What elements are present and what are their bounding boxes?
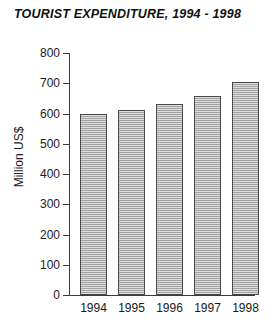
bar-1994 <box>80 114 107 295</box>
y-axis-tick-label: 400 <box>12 168 60 180</box>
y-axis-tick-mark <box>63 235 69 236</box>
y-axis-line <box>69 53 70 296</box>
y-axis-tick-label: 300 <box>12 198 60 210</box>
x-axis-tick-label: 1996 <box>150 302 190 315</box>
y-axis-tick-label: 100 <box>12 259 60 271</box>
bar-1995 <box>118 110 145 295</box>
y-axis-tick-mark <box>63 204 69 205</box>
y-axis-tick-mark <box>63 114 69 115</box>
y-axis-title: Million US$ <box>12 112 26 202</box>
y-axis-tick-label: 200 <box>12 229 60 241</box>
x-axis-line <box>69 295 255 296</box>
y-axis-tick-label: 600 <box>12 108 60 120</box>
y-axis-tick-label: 500 <box>12 138 60 150</box>
y-axis-tick-label: 800 <box>12 47 60 59</box>
x-axis-tick-label: 1995 <box>112 302 152 315</box>
x-axis-tick-label: 1997 <box>188 302 228 315</box>
y-axis-tick-mark <box>63 265 69 266</box>
y-axis-tick-mark <box>63 295 69 296</box>
bar-1996 <box>156 104 183 295</box>
x-axis-tick-label: 1998 <box>226 302 266 315</box>
bar-1998 <box>232 82 259 295</box>
y-axis-tick-mark <box>63 53 69 54</box>
y-axis-tick-label: 0 <box>12 289 60 301</box>
y-axis-tick-mark <box>63 174 69 175</box>
y-axis-tick-label: 700 <box>12 77 60 89</box>
bar-chart-plot-area: Million US$ 0100200300400500600700800 19… <box>0 0 275 335</box>
x-axis-tick-label: 1994 <box>74 302 114 315</box>
y-axis-tick-mark <box>63 83 69 84</box>
y-axis-tick-mark <box>63 144 69 145</box>
bar-1997 <box>194 96 221 295</box>
